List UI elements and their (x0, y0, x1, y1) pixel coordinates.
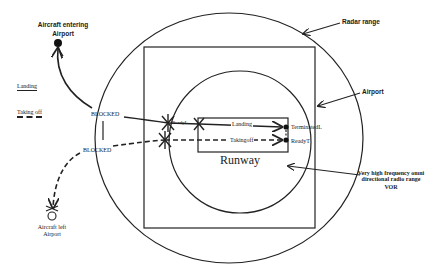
vor-label-line3: VOR (346, 184, 436, 190)
vor-label-line2: directional radio range (346, 176, 436, 182)
blocked-node-bottom: BLOCKED (83, 147, 111, 153)
blocked-to-readyl-line (124, 117, 168, 123)
aircraft-left-label: Aircraft left Airport (22, 224, 82, 237)
readyl-label: ReadyL (172, 120, 188, 125)
aircraft-left-circle (48, 212, 56, 220)
aircraft-left-line1: Aircraft left (22, 224, 82, 230)
airport-pointer (318, 93, 360, 106)
aircraft-entering-line2: Airport (28, 31, 98, 38)
legend-taking-off: Taking off (17, 109, 42, 118)
aircraft-entering-line1: Aircraft entering (28, 22, 98, 29)
radar-range-pointer (303, 23, 340, 34)
radar-range-label: Radar range (342, 19, 380, 26)
vor-label: Very high frequency omni directional rad… (346, 170, 436, 190)
legend-landing: Landing (17, 83, 37, 91)
airport-label: Airport (362, 89, 384, 96)
blocked-to-takeoff-line (113, 140, 165, 146)
runway-label: Runway (220, 154, 260, 166)
blocked-to-entering-arrow (58, 48, 92, 108)
airport-state-diagram: Radar range Airport Runway Very high fre… (0, 0, 446, 276)
terminatedl-label: TerminatedL (291, 124, 322, 130)
blocked-node-top: BLOCKED (91, 111, 119, 117)
aircraft-left-cross-icon (46, 206, 58, 211)
blocked-to-left-arrow (53, 153, 80, 208)
aircraft-entering-arrowhead-icon (58, 48, 63, 56)
readyt-dot (283, 137, 288, 142)
takingoff-transition-label: Takingoff (229, 137, 254, 143)
terminatedl-dot (283, 124, 288, 129)
landing-transition-label: Landing (231, 121, 253, 127)
aircraft-entering-dot (54, 39, 62, 47)
aircraft-entering-label: Aircraft entering Airport (28, 22, 98, 37)
aircraft-left-line2: Airport (22, 231, 82, 237)
readyt-label: ReadyT (291, 138, 310, 144)
